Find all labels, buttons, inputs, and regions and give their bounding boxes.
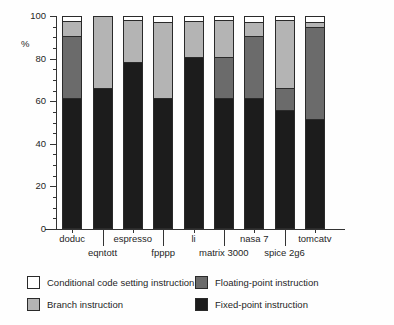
chart-legend: Conditional code setting instructionFloa… — [27, 271, 367, 315]
bar-spice-2g6[interactable] — [275, 16, 295, 229]
bar-segment — [185, 58, 203, 228]
bar-segment — [124, 63, 142, 228]
bar-segment — [215, 99, 233, 228]
legend-item[interactable]: Branch instruction — [27, 298, 195, 311]
legend-label: Floating-point instruction — [215, 277, 319, 288]
y-tick-label: 60 — [16, 96, 46, 106]
legend-swatch-icon — [195, 276, 208, 289]
legend-item[interactable]: Fixed-point instruction — [195, 298, 363, 311]
bar-matrix-3000[interactable] — [214, 16, 234, 229]
bar-segment — [215, 58, 233, 99]
x-tick-mark — [194, 229, 195, 233]
bar-nasa-7[interactable] — [244, 16, 264, 229]
bar-li[interactable] — [184, 16, 204, 229]
legend-item[interactable]: Conditional code setting instruction — [27, 276, 195, 289]
x-axis-line — [45, 229, 345, 230]
x-label-leader-line — [163, 229, 164, 246]
x-label-leader-line — [224, 229, 225, 246]
plot-area — [57, 16, 330, 229]
x-tick-label-eqntott: eqntott — [88, 247, 117, 258]
x-tick-label-fpppp: fpppp — [151, 247, 175, 258]
y-tick-major — [50, 59, 57, 60]
bar-segment — [245, 99, 263, 228]
x-tick-mark — [133, 229, 134, 233]
x-tick-label-nasa-7: nasa 7 — [240, 233, 269, 244]
legend-swatch-icon — [195, 298, 208, 311]
legend-label: Conditional code setting instruction — [47, 277, 194, 288]
bar-segment — [245, 23, 263, 37]
bar-segment — [94, 17, 112, 89]
legend-item[interactable]: Floating-point instruction — [195, 276, 363, 289]
y-tick-major — [50, 144, 57, 145]
x-label-leader-line — [103, 229, 104, 246]
y-tick-major — [50, 229, 57, 230]
x-tick-label-espresso: espresso — [114, 233, 153, 244]
x-tick-label-tomcatv: tomcatv — [298, 233, 331, 244]
y-tick-major — [50, 16, 57, 17]
y-tick-major — [50, 101, 57, 102]
x-tick-mark — [254, 229, 255, 233]
y-tick-label: 40 — [16, 139, 46, 149]
legend-label: Branch instruction — [47, 299, 123, 310]
bar-segment — [306, 120, 324, 228]
y-axis-label: % — [21, 38, 29, 49]
bar-segment — [63, 22, 81, 37]
bar-segment — [245, 37, 263, 99]
bar-segment — [306, 28, 324, 121]
bar-segment — [215, 21, 233, 58]
y-tick-label: 100 — [16, 11, 46, 21]
bar-segment — [276, 21, 294, 89]
y-tick-label: 20 — [16, 181, 46, 191]
bar-doduc[interactable] — [62, 16, 82, 229]
bar-tomcatv[interactable] — [305, 16, 325, 229]
y-tick-major — [50, 186, 57, 187]
x-tick-mark — [315, 229, 316, 233]
chart-figure: % 100806040200 doduceqntottespressofpppp… — [0, 0, 394, 325]
x-tick-mark — [72, 229, 73, 233]
bar-segment — [154, 99, 172, 228]
bar-segment — [124, 21, 142, 63]
y-tick-label: 80 — [16, 54, 46, 64]
bar-espresso[interactable] — [123, 16, 143, 229]
bar-segment — [154, 23, 172, 99]
bar-segment — [276, 89, 294, 111]
bar-segment — [94, 89, 112, 228]
bar-fpppp[interactable] — [153, 16, 173, 229]
bar-segment — [63, 99, 81, 228]
x-tick-label-li: li — [191, 233, 195, 244]
x-tick-label-doduc: doduc — [59, 233, 85, 244]
legend-swatch-icon — [27, 298, 40, 311]
x-tick-label-spice-2g6: spice 2g6 — [264, 247, 305, 258]
x-label-leader-line — [285, 229, 286, 246]
legend-label: Fixed-point instruction — [215, 299, 308, 310]
bar-segment — [185, 22, 203, 58]
bar-segment — [63, 37, 81, 99]
x-tick-label-matrix-3000: matrix 3000 — [199, 247, 249, 258]
legend-swatch-icon — [27, 276, 40, 289]
bar-eqntott[interactable] — [93, 16, 113, 229]
y-tick-label: 0 — [16, 224, 46, 234]
bar-segment — [276, 111, 294, 228]
